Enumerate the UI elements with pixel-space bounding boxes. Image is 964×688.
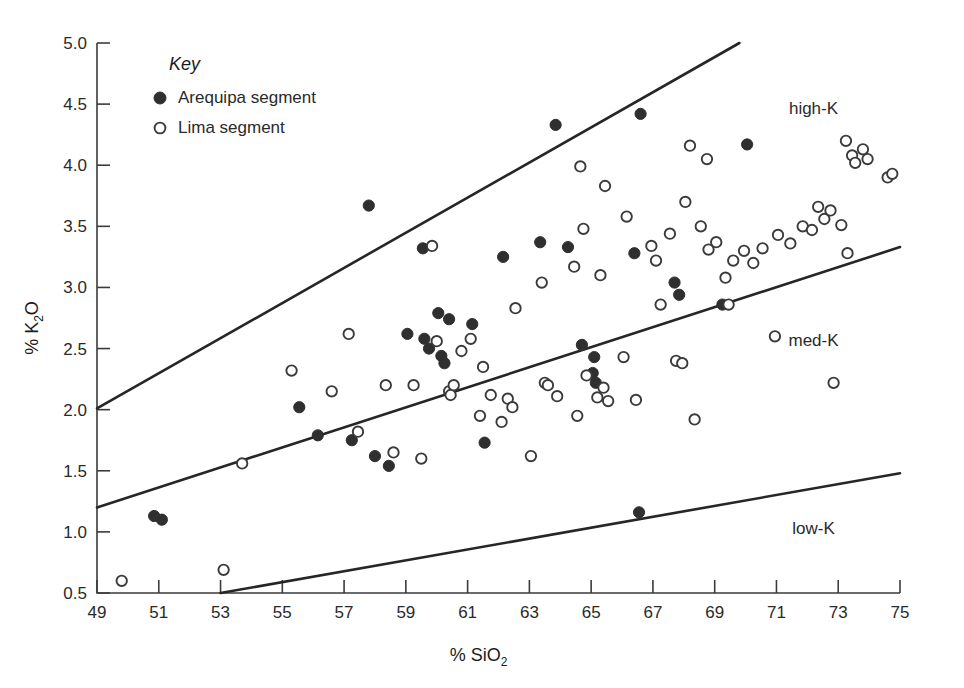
data-point-lima bbox=[862, 154, 872, 164]
x-tick-label: 53 bbox=[211, 603, 230, 622]
x-tick-label: 69 bbox=[705, 603, 724, 622]
data-point-arequipa bbox=[363, 200, 374, 211]
data-point-lima bbox=[813, 202, 823, 212]
x-tick-label: 55 bbox=[273, 603, 292, 622]
data-point-lima bbox=[600, 181, 610, 191]
data-point-lima bbox=[720, 272, 730, 282]
y-tick-label: 1.0 bbox=[63, 523, 87, 542]
data-point-arequipa bbox=[669, 277, 680, 288]
data-point-lima bbox=[887, 169, 897, 179]
data-point-lima bbox=[696, 221, 706, 231]
legend-marker-arequipa bbox=[154, 92, 166, 104]
data-point-lima bbox=[748, 258, 758, 268]
chart-figure: 0.51.01.52.02.53.03.54.04.55.04951535557… bbox=[0, 0, 964, 688]
data-point-lima bbox=[646, 241, 656, 251]
data-point-arequipa bbox=[467, 319, 478, 330]
data-point-lima bbox=[507, 402, 517, 412]
data-point-lima bbox=[486, 390, 496, 400]
x-tick-label: 51 bbox=[149, 603, 168, 622]
data-point-arequipa bbox=[550, 119, 561, 130]
legend-label: Arequipa segment bbox=[178, 88, 316, 107]
data-point-lima bbox=[592, 392, 602, 402]
data-point-lima bbox=[702, 154, 712, 164]
data-point-lima bbox=[651, 255, 661, 265]
data-point-lima bbox=[621, 211, 631, 221]
data-point-arequipa bbox=[635, 108, 646, 119]
x-tick-label: 71 bbox=[767, 603, 786, 622]
x-tick-label: 49 bbox=[88, 603, 107, 622]
data-point-lima bbox=[456, 346, 466, 356]
data-point-arequipa bbox=[439, 358, 450, 369]
data-point-lima bbox=[655, 299, 665, 309]
data-point-lima bbox=[572, 411, 582, 421]
data-point-lima bbox=[445, 390, 455, 400]
y-tick-label: 3.5 bbox=[63, 217, 87, 236]
x-tick-label: 67 bbox=[643, 603, 662, 622]
y-tick-label: 2.5 bbox=[63, 340, 87, 359]
data-point-lima bbox=[478, 362, 488, 372]
data-point-arequipa bbox=[312, 430, 323, 441]
data-point-arequipa bbox=[498, 251, 509, 262]
data-point-lima bbox=[711, 237, 721, 247]
data-point-lima bbox=[432, 336, 442, 346]
data-point-lima bbox=[842, 248, 852, 258]
data-point-lima bbox=[785, 238, 795, 248]
data-point-arequipa bbox=[562, 242, 573, 253]
data-point-arequipa bbox=[149, 510, 160, 521]
data-points-layer bbox=[117, 108, 898, 586]
data-point-lima bbox=[631, 395, 641, 405]
data-point-lima bbox=[578, 224, 588, 234]
y-tick-label: 2.0 bbox=[63, 401, 87, 420]
data-point-arequipa bbox=[629, 248, 640, 259]
x-tick-label: 57 bbox=[335, 603, 354, 622]
data-point-lima bbox=[496, 417, 506, 427]
data-point-lima bbox=[728, 255, 738, 265]
data-point-lima bbox=[526, 451, 536, 461]
chart-legend: KeyArequipa segmentLima segment bbox=[154, 54, 316, 137]
data-point-lima bbox=[466, 334, 476, 344]
data-point-lima bbox=[689, 414, 699, 424]
y-tick-label: 3.0 bbox=[63, 278, 87, 297]
data-point-arequipa bbox=[589, 352, 600, 363]
data-point-lima bbox=[552, 391, 562, 401]
boundary-line bbox=[97, 247, 900, 507]
data-point-arequipa bbox=[443, 314, 454, 325]
data-point-arequipa bbox=[576, 339, 587, 350]
x-axis-title: % SiO2 bbox=[450, 645, 508, 669]
data-point-lima bbox=[680, 197, 690, 207]
data-point-lima bbox=[381, 380, 391, 390]
y-tick-label: 5.0 bbox=[63, 34, 87, 53]
scatter-plot: 0.51.01.52.02.53.03.54.04.55.04951535557… bbox=[0, 0, 964, 688]
data-point-lima bbox=[665, 228, 675, 238]
data-point-lima bbox=[757, 243, 767, 253]
data-point-lima bbox=[677, 358, 687, 368]
data-point-lima bbox=[117, 576, 127, 586]
data-point-lima bbox=[388, 447, 398, 457]
legend-title: Key bbox=[169, 54, 201, 74]
data-point-arequipa bbox=[742, 139, 753, 150]
data-point-lima bbox=[841, 136, 851, 146]
data-point-arequipa bbox=[535, 237, 546, 248]
x-tick-label: 73 bbox=[829, 603, 848, 622]
data-point-lima bbox=[344, 329, 354, 339]
data-point-lima bbox=[427, 241, 437, 251]
region-label-lowk: low-K bbox=[792, 519, 835, 538]
data-point-lima bbox=[773, 230, 783, 240]
legend-label: Lima segment bbox=[178, 118, 285, 137]
data-point-lima bbox=[603, 396, 613, 406]
data-point-lima bbox=[543, 380, 553, 390]
data-point-arequipa bbox=[633, 507, 644, 518]
data-point-lima bbox=[510, 303, 520, 313]
x-tick-label: 59 bbox=[396, 603, 415, 622]
x-tick-label: 63 bbox=[520, 603, 539, 622]
data-point-lima bbox=[828, 378, 838, 388]
data-point-lima bbox=[408, 380, 418, 390]
data-point-lima bbox=[850, 158, 860, 168]
data-point-lima bbox=[858, 144, 868, 154]
data-point-lima bbox=[218, 565, 228, 575]
data-point-lima bbox=[685, 140, 695, 150]
data-point-lima bbox=[618, 352, 628, 362]
data-point-lima bbox=[537, 277, 547, 287]
data-point-lima bbox=[598, 382, 608, 392]
data-point-lima bbox=[595, 270, 605, 280]
